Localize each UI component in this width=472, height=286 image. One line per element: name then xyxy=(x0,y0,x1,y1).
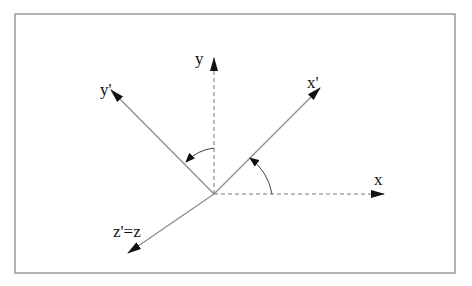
label-x-prime: x' xyxy=(307,73,319,92)
label-x: x xyxy=(374,170,383,189)
angle-arc-y xyxy=(186,148,214,162)
z-axis xyxy=(128,194,214,253)
label-z: z'=z xyxy=(113,222,141,241)
frame xyxy=(15,14,455,273)
label-y-prime: y' xyxy=(100,80,112,99)
rotation-diagram: y y' x' x z'=z xyxy=(0,0,472,286)
y-prime-axis xyxy=(111,90,214,194)
label-y: y xyxy=(195,49,204,68)
angle-arc-x xyxy=(250,158,272,194)
